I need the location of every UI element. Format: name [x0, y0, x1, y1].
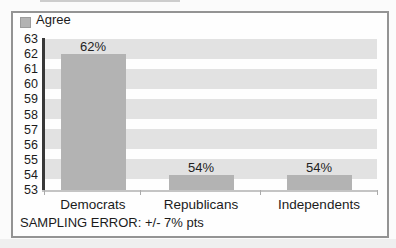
y-axis-tick-label: 57: [12, 123, 38, 137]
legend-swatch-agree: [20, 17, 31, 28]
y-axis-tick-label: 56: [12, 138, 38, 152]
y-axis-tick-label: 55: [12, 153, 38, 167]
page-margin-bottom: [0, 239, 396, 248]
cropped-title-artifact: [40, 0, 180, 2]
chart-page: Agree 636261605958575655545362%Democrats…: [0, 0, 396, 248]
y-axis-tick-label: 54: [12, 168, 38, 182]
y-axis-tick-label: 60: [12, 77, 38, 91]
y-axis-tick-label: 62: [12, 47, 38, 61]
x-axis-tick: [377, 190, 378, 195]
x-axis-tick: [44, 190, 45, 195]
category-label-independents: Independents: [254, 197, 384, 212]
y-axis-tick-label: 59: [12, 92, 38, 106]
y-axis-tick-label: 53: [12, 183, 38, 197]
bar-value-label: 54%: [171, 161, 231, 175]
bar-democrats: [61, 54, 126, 190]
bar-value-label: 62%: [63, 40, 123, 54]
y-axis-tick-label: 63: [12, 32, 38, 46]
bar-republicans: [169, 175, 234, 190]
y-axis-line: [42, 38, 45, 191]
bar-value-label: 54%: [289, 161, 349, 175]
sampling-error-note: SAMPLING ERROR: +/- 7% pts: [20, 215, 204, 231]
category-label-republicans: Republicans: [136, 197, 266, 212]
x-axis-tick: [140, 190, 141, 195]
y-axis-tick-label: 61: [12, 62, 38, 76]
x-axis-tick: [260, 190, 261, 195]
legend-label-agree: Agree: [36, 11, 71, 29]
x-axis-baseline: [42, 190, 378, 192]
y-axis-tick-label: 58: [12, 108, 38, 122]
bar-independents: [287, 175, 352, 190]
